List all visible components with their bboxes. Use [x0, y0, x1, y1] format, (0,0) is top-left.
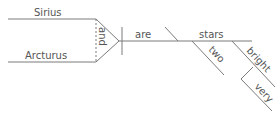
label-arcturus: Arcturus — [25, 50, 67, 61]
connector-very — [241, 67, 253, 79]
sentence-diagram: Sirius Arcturus and are stars two bright… — [0, 0, 277, 113]
predicate-divider — [165, 27, 178, 41]
label-and: and — [97, 27, 108, 46]
label-stars: stars — [199, 29, 224, 40]
label-two: two — [207, 44, 227, 65]
label-are: are — [135, 29, 151, 40]
label-sirius: Sirius — [34, 7, 62, 18]
